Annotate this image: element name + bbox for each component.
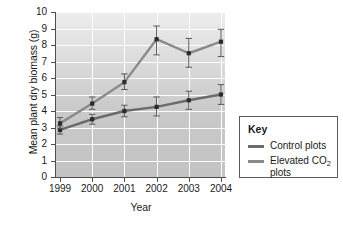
x-tick-label: 2000: [75, 184, 109, 194]
data-point-marker: [155, 37, 159, 41]
series-line: [60, 95, 221, 130]
y-tick-label: 2: [23, 139, 47, 149]
chart-figure: Mean plant dry biomass (g) 012345678910 …: [0, 0, 343, 225]
x-tick-label: 1999: [43, 184, 77, 194]
data-point-marker: [155, 105, 159, 109]
data-point-marker: [219, 40, 223, 44]
data-point-marker: [58, 121, 62, 125]
y-tick: [51, 128, 55, 129]
y-tick-label: 1: [23, 156, 47, 166]
x-tick-label: 2003: [172, 184, 206, 194]
legend-swatch-control: [248, 145, 264, 148]
y-tick-label: 10: [23, 7, 47, 17]
y-tick-label: 5: [23, 90, 47, 100]
plot-area: [56, 12, 225, 177]
series-line: [60, 39, 221, 123]
data-point-marker: [219, 92, 223, 96]
y-tick: [51, 111, 55, 112]
y-tick: [51, 29, 55, 30]
legend-label-suffix: plots: [270, 167, 291, 178]
x-tick: [189, 178, 190, 182]
y-tick-label: 8: [23, 40, 47, 50]
y-tick-label: 6: [23, 73, 47, 83]
data-point-marker: [90, 101, 94, 105]
data-point-marker: [122, 109, 126, 113]
x-tick: [157, 178, 158, 182]
y-tick-label: 9: [23, 24, 47, 34]
y-tick-label: 0: [23, 172, 47, 182]
y-tick: [51, 95, 55, 96]
x-tick-label: 2004: [204, 184, 238, 194]
data-layer: [56, 12, 225, 177]
y-tick: [51, 45, 55, 46]
y-tick: [51, 177, 55, 178]
y-tick-label: 3: [23, 123, 47, 133]
data-point-marker: [187, 98, 191, 102]
legend-label-prefix: Elevated CO: [270, 155, 327, 166]
x-tick: [221, 178, 222, 182]
series-elevated-co2-plots: [57, 26, 224, 128]
x-axis-title: Year: [56, 201, 226, 213]
legend-box: Key Control plots Elevated CO2 plots: [239, 116, 338, 178]
y-tick: [51, 161, 55, 162]
data-point-marker: [122, 80, 126, 84]
data-point-marker: [187, 51, 191, 55]
x-tick: [60, 178, 61, 182]
x-tick-label: 2002: [140, 184, 174, 194]
legend-swatch-elevated-co2: [248, 160, 264, 163]
y-axis-line: [55, 12, 56, 178]
x-tick: [92, 178, 93, 182]
legend-label-control: Control plots: [270, 140, 326, 152]
legend-title: Key: [248, 123, 337, 135]
y-tick: [51, 12, 55, 13]
data-point-marker: [90, 117, 94, 121]
legend-item-elevated-co2: Elevated CO2 plots: [248, 155, 337, 179]
x-tick-label: 2001: [107, 184, 141, 194]
y-tick-label: 4: [23, 106, 47, 116]
x-tick: [124, 178, 125, 182]
x-axis-line: [55, 177, 226, 178]
y-tick: [51, 144, 55, 145]
legend-label-elevated-co2: Elevated CO2 plots: [270, 155, 337, 179]
y-tick: [51, 62, 55, 63]
legend-item-control: Control plots: [248, 140, 337, 152]
y-tick: [51, 78, 55, 79]
legend-label-subscript: 2: [327, 159, 331, 168]
y-tick-label: 7: [23, 57, 47, 67]
